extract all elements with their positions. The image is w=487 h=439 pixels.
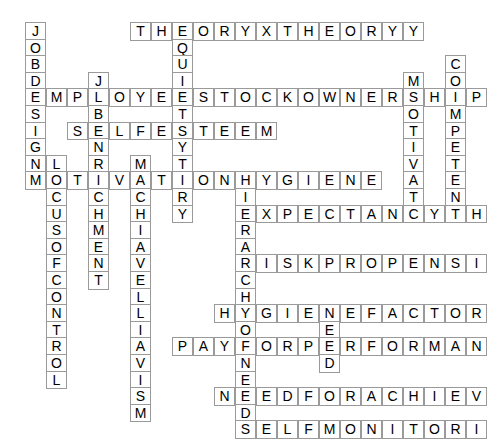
crossword-cell: I	[424, 387, 445, 406]
crossword-cell: O	[319, 387, 340, 406]
crossword-cell: Y	[172, 205, 193, 224]
crossword-cell: E	[445, 387, 466, 406]
crossword-cell: N	[466, 337, 487, 356]
crossword-cell: I	[298, 171, 319, 190]
crossword-cell: L	[109, 122, 130, 141]
crossword-cell: L	[46, 371, 67, 390]
crossword-cell: I	[256, 254, 277, 273]
crossword-cell: P	[172, 337, 193, 356]
crossword-cell: O	[445, 304, 466, 323]
crossword-cell: N	[361, 420, 382, 439]
crossword-cell: O	[256, 337, 277, 356]
crossword-cell: T	[445, 205, 466, 224]
crossword-cell: G	[277, 171, 298, 190]
crossword-cell: R	[445, 420, 466, 439]
crossword-cell: R	[340, 337, 361, 356]
crossword-cell: E	[319, 22, 340, 41]
crossword-cell: E	[403, 254, 424, 273]
crossword-cell: F	[361, 337, 382, 356]
crossword-cell: T	[340, 205, 361, 224]
crossword-cell: W	[319, 88, 340, 107]
crossword-cell: S	[193, 88, 214, 107]
crossword-cell: A	[193, 337, 214, 356]
crossword-cell: H	[424, 88, 445, 107]
crossword-cell: A	[382, 304, 403, 323]
crossword-cell: T	[403, 420, 424, 439]
crossword-cell: V	[466, 387, 487, 406]
crossword-cell: R	[340, 254, 361, 273]
crossword-cell: O	[340, 420, 361, 439]
crossword-cell: C	[319, 205, 340, 224]
crossword-cell: K	[298, 254, 319, 273]
crossword-cell: Y	[424, 205, 445, 224]
crossword-cell: N	[424, 254, 445, 273]
crossword-cell: P	[466, 88, 487, 107]
crossword-cell: R	[340, 387, 361, 406]
crossword-cell: T	[214, 88, 235, 107]
crossword-cell: P	[277, 205, 298, 224]
crossword-cell: R	[466, 304, 487, 323]
crossword-cell: R	[214, 22, 235, 41]
crossword-cell: R	[403, 337, 424, 356]
crossword-cell: P	[67, 88, 88, 107]
crossword-cell: M	[46, 88, 67, 107]
crossword-cell: X	[256, 205, 277, 224]
crossword-cell: V	[109, 171, 130, 190]
crossword-cell: N	[214, 387, 235, 406]
crossword-cell: E	[298, 205, 319, 224]
crossword-cell: I	[466, 254, 487, 273]
crossword-cell: T	[130, 22, 151, 41]
crossword-cell: O	[235, 88, 256, 107]
crossword-cell: T	[193, 122, 214, 141]
crossword-cell: E	[256, 420, 277, 439]
crossword-cell: O	[109, 88, 130, 107]
crossword-cell: C	[403, 304, 424, 323]
crossword-cell: C	[256, 88, 277, 107]
crossword-cell: K	[277, 88, 298, 107]
crossword-cell: S	[277, 254, 298, 273]
crossword-cell: H	[403, 387, 424, 406]
crossword-cell: M	[424, 337, 445, 356]
crossword-cell: O	[298, 88, 319, 107]
crossword-cell: E	[256, 387, 277, 406]
crossword-cell: N	[340, 88, 361, 107]
crossword-cell: P	[382, 254, 403, 273]
crossword-cell: X	[256, 22, 277, 41]
crossword-cell: E	[298, 304, 319, 323]
crossword-cell: E	[235, 122, 256, 141]
crossword-cell: H	[466, 205, 487, 224]
crossword-cell: D	[277, 387, 298, 406]
crossword-cell: N	[382, 205, 403, 224]
crossword-cell: O	[382, 337, 403, 356]
crossword-cell: Y	[256, 171, 277, 190]
crossword-cell: C	[403, 205, 424, 224]
crossword-cell: O	[361, 254, 382, 273]
crossword-cell: Y	[130, 88, 151, 107]
crossword-cell: F	[130, 122, 151, 141]
crossword-cell: O	[193, 22, 214, 41]
crossword-cell: O	[340, 22, 361, 41]
crossword-cell: N	[340, 171, 361, 190]
crossword-cell: A	[445, 337, 466, 356]
crossword-cell: E	[214, 122, 235, 141]
crossword-cell: L	[277, 420, 298, 439]
crossword-cell: N	[214, 171, 235, 190]
crossword-cell: F	[361, 304, 382, 323]
crossword-cell: F	[298, 387, 319, 406]
crossword-cell: M	[319, 420, 340, 439]
crossword-cell: S	[67, 122, 88, 141]
crossword-cell: M	[25, 171, 46, 190]
crossword-cell: E	[151, 88, 172, 107]
crossword-cell: P	[298, 337, 319, 356]
crossword-cell: M	[130, 404, 151, 423]
crossword-cell: I	[466, 420, 487, 439]
crossword-cell: I	[382, 420, 403, 439]
crossword-cell: P	[319, 254, 340, 273]
crossword-cell: F	[298, 420, 319, 439]
crossword-cell: T	[88, 271, 109, 290]
crossword-cell: G	[256, 304, 277, 323]
crossword-cell: E	[319, 171, 340, 190]
crossword-cell: A	[361, 387, 382, 406]
crossword-cell: Y	[214, 337, 235, 356]
crossword-cell: S	[445, 254, 466, 273]
